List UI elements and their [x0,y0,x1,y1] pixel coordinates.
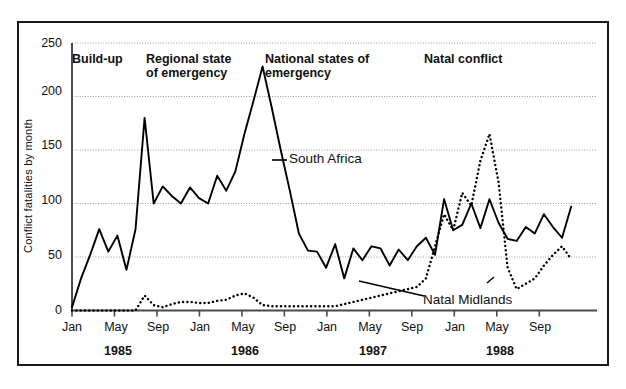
series-line-south-africa [72,67,571,308]
series-line-natal-midlands [72,134,571,311]
figure-container: Conflict fatalities by month 250 200 150… [0,0,626,389]
plot-area [0,0,626,389]
leader-line-natal-peak [487,277,494,283]
gridlines [72,43,597,257]
